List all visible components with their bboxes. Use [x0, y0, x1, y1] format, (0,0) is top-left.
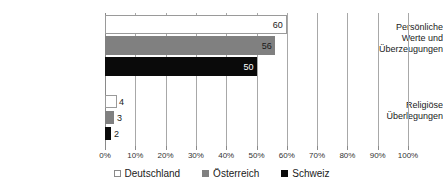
bar-group-0: 605650 — [105, 15, 408, 78]
bar-row: 56 — [105, 36, 408, 55]
bar-sterreich-1: 3 — [105, 111, 114, 124]
bar-value-label: 3 — [117, 113, 122, 122]
bar-chart: PersönlicheWerte undÜberzeugungen Religi… — [0, 0, 443, 191]
bar-schweiz-1: 2 — [105, 127, 111, 140]
bar-deutschland-0: 60 — [105, 15, 287, 34]
legend-swatch-deutschland-icon — [114, 170, 121, 177]
bar-row: 50 — [105, 57, 408, 76]
x-tick-label-0: 0% — [99, 151, 111, 160]
legend-swatch-schweiz-icon — [281, 170, 288, 177]
x-tick-50 — [257, 146, 258, 150]
legend-label: Deutschland — [125, 168, 181, 179]
bar-value-label: 50 — [243, 62, 253, 71]
x-tick-label-30: 30% — [188, 151, 204, 160]
x-tick-30 — [196, 146, 197, 150]
x-tick-20 — [166, 146, 167, 150]
legend-label: Schweiz — [292, 168, 329, 179]
legend-swatch-oesterreich-icon — [202, 170, 209, 177]
bar-row: 4 — [105, 95, 408, 108]
bar-row: 60 — [105, 15, 408, 34]
legend-label: Österreich — [213, 168, 259, 179]
x-tick-label-20: 20% — [158, 151, 174, 160]
x-axis: 0%10%20%30%40%50%60%70%80%90%100% — [105, 146, 408, 162]
x-tick-label-50: 50% — [248, 151, 264, 160]
x-tick-60 — [287, 146, 288, 150]
x-tick-label-80: 80% — [339, 151, 355, 160]
x-tick-label-100: 100% — [398, 151, 418, 160]
bar-value-label: 2 — [114, 129, 119, 138]
x-tick-0 — [105, 146, 106, 150]
bar-value-label: 56 — [262, 41, 272, 50]
x-tick-label-90: 90% — [370, 151, 386, 160]
x-tick-70 — [317, 146, 318, 150]
legend-item-sterreich[interactable]: Österreich — [202, 168, 259, 179]
bar-deutschland-1: 4 — [105, 95, 117, 108]
x-tick-100 — [408, 146, 409, 150]
plot-area: 605650432 — [105, 13, 408, 146]
x-tick-label-70: 70% — [309, 151, 325, 160]
bar-sterreich-0: 56 — [105, 36, 275, 55]
bar-value-label: 4 — [119, 97, 124, 106]
bar-row: 3 — [105, 111, 408, 124]
bar-row: 2 — [105, 127, 408, 140]
bar-value-label: 60 — [273, 20, 283, 29]
chart-legend: DeutschlandÖsterreichSchweiz — [0, 168, 443, 179]
legend-item-deutschland[interactable]: Deutschland — [114, 168, 181, 179]
x-tick-80 — [347, 146, 348, 150]
x-tick-40 — [226, 146, 227, 150]
legend-item-schweiz[interactable]: Schweiz — [281, 168, 329, 179]
bar-schweiz-0: 50 — [105, 57, 257, 76]
bar-group-1: 432 — [105, 95, 408, 143]
gridline-100 — [408, 13, 409, 146]
x-tick-90 — [378, 146, 379, 150]
x-tick-label-10: 10% — [127, 151, 143, 160]
x-tick-label-60: 60% — [279, 151, 295, 160]
x-tick-10 — [135, 146, 136, 150]
x-tick-label-40: 40% — [218, 151, 234, 160]
